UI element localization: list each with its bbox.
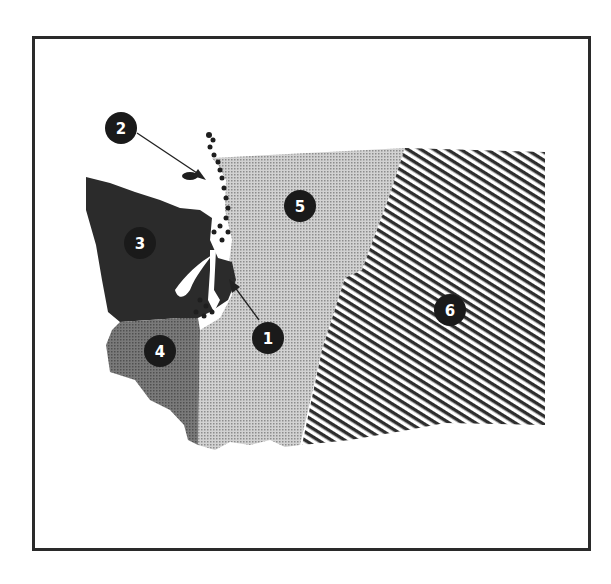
svg-text:5: 5 bbox=[295, 198, 305, 216]
svg-text:3: 3 bbox=[135, 235, 145, 253]
arrow-2 bbox=[137, 133, 206, 180]
svg-text:2: 2 bbox=[116, 120, 126, 138]
badge-1: 1 bbox=[252, 322, 284, 354]
badge-4: 4 bbox=[144, 335, 176, 367]
svg-text:4: 4 bbox=[155, 343, 165, 361]
badge-2: 2 bbox=[105, 112, 137, 144]
badge-6: 6 bbox=[434, 294, 466, 326]
svg-text:6: 6 bbox=[445, 302, 455, 320]
badge-3: 3 bbox=[124, 227, 156, 259]
svg-text:1: 1 bbox=[263, 330, 273, 348]
badge-5: 5 bbox=[284, 190, 316, 222]
washington-zone-map: 1 2 3 4 5 6 bbox=[0, 0, 611, 584]
